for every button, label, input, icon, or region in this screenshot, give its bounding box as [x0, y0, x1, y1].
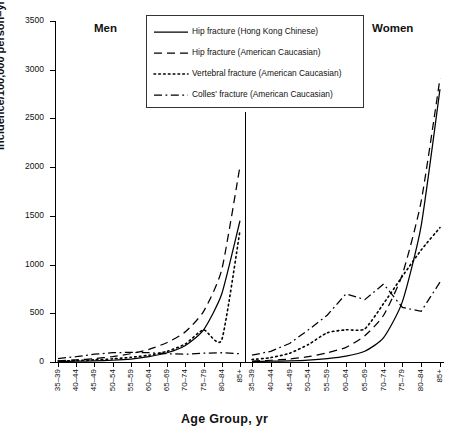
- y-tick-label: 3500: [10, 16, 44, 25]
- x-tick-label: 50–54: [304, 369, 312, 391]
- y-tick-label: 1000: [10, 260, 44, 269]
- x-tick-label: 40–44: [72, 369, 80, 391]
- y-tick-mark: [50, 362, 56, 363]
- x-tick-label: 70–74: [380, 369, 388, 391]
- x-tick-label: 45–49: [90, 369, 98, 391]
- series-line-solid: [252, 89, 440, 361]
- x-tick-mark: [327, 362, 328, 367]
- x-tick-label: 65–69: [361, 369, 369, 391]
- x-tick-mark: [346, 362, 347, 367]
- x-tick-mark: [76, 362, 77, 367]
- x-tick-label: 60–64: [145, 369, 153, 391]
- x-tick-mark: [149, 362, 150, 367]
- x-tick-mark: [271, 362, 272, 367]
- x-tick-mark: [440, 362, 441, 367]
- x-tick-label: 35–39: [54, 369, 62, 391]
- x-tick-label: 40–44: [267, 369, 275, 391]
- x-tick-mark: [252, 362, 253, 367]
- x-tick-mark: [308, 362, 309, 367]
- x-tick-label: 55–59: [127, 369, 135, 391]
- x-tick-label: 85+: [436, 369, 444, 383]
- x-tick-mark: [421, 362, 422, 367]
- y-tick-label: 2500: [10, 113, 44, 122]
- plot-area: [56, 21, 444, 362]
- x-tick-mark: [384, 362, 385, 367]
- x-tick-label: 75–79: [200, 369, 208, 391]
- y-tick-label: 0: [10, 357, 44, 366]
- x-tick-mark: [131, 362, 132, 367]
- series-line-dashed: [252, 78, 440, 361]
- x-tick-mark: [222, 362, 223, 367]
- y-tick-label: 2000: [10, 162, 44, 171]
- y-axis-title: Incidence/100,000 person–yr: [0, 0, 6, 150]
- x-tick-mark: [58, 362, 59, 367]
- x-tick-label: 65–69: [163, 369, 171, 391]
- x-tick-mark: [290, 362, 291, 367]
- x-tick-mark: [402, 362, 403, 367]
- series-line-dotted: [252, 228, 440, 360]
- series-line-dashed: [58, 166, 240, 361]
- y-tick-label: 1500: [10, 211, 44, 220]
- y-tick-label: 3000: [10, 65, 44, 74]
- x-axis-title: Age Group, yr: [0, 412, 449, 426]
- series-line-dotted: [58, 230, 240, 361]
- x-tick-mark: [113, 362, 114, 367]
- fracture-incidence-chart: 0500100015002000250030003500 35–3940–444…: [0, 0, 449, 440]
- y-tick-label: 500: [10, 308, 44, 317]
- x-tick-label: 45–49: [286, 369, 294, 391]
- x-tick-label: 35–39: [248, 369, 256, 391]
- x-tick-mark: [365, 362, 366, 367]
- x-tick-label: 75–79: [398, 369, 406, 391]
- x-tick-label: 60–64: [342, 369, 350, 391]
- x-tick-mark: [167, 362, 168, 367]
- curves-layer: [56, 21, 444, 362]
- x-tick-mark: [240, 362, 241, 367]
- x-tick-mark: [94, 362, 95, 367]
- x-tick-label: 70–74: [181, 369, 189, 391]
- series-line-dashdot: [252, 282, 440, 355]
- series-line-solid: [58, 221, 240, 362]
- x-tick-mark: [185, 362, 186, 367]
- x-tick-label: 80–84: [218, 369, 226, 391]
- x-tick-label: 85+: [236, 369, 244, 383]
- x-tick-mark: [204, 362, 205, 367]
- x-tick-label: 55–59: [323, 369, 331, 391]
- x-tick-label: 80–84: [417, 369, 425, 391]
- x-tick-label: 50–54: [109, 369, 117, 391]
